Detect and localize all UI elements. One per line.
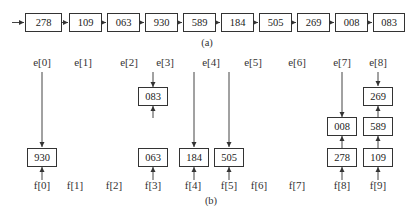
radix-sort-diagram: 278 109 063 930 589 184 505 269 008 083 …: [0, 0, 407, 214]
bucket-node: 184: [179, 148, 209, 167]
f-label: f[6]: [251, 179, 268, 191]
bucket-node: 505: [214, 148, 244, 167]
bucket-node: 278: [327, 148, 357, 167]
list-node: 008: [335, 13, 368, 32]
e-label: e[2]: [120, 56, 138, 68]
bucket-node: 083: [138, 87, 168, 106]
e-label: e[6]: [288, 56, 306, 68]
f-label: f[3]: [145, 179, 162, 191]
f-label: f[0]: [34, 179, 51, 191]
caption-b: (b): [205, 195, 217, 206]
e-label: e[1]: [74, 56, 92, 68]
caption-a: (a): [201, 37, 213, 48]
bucket-node: 930: [27, 148, 57, 167]
f-label: f[4]: [185, 179, 202, 191]
list-node: 269: [297, 13, 330, 32]
list-node: 505: [259, 13, 292, 32]
e-label: e[8]: [369, 56, 387, 68]
f-label: f[8]: [334, 179, 351, 191]
f-label: f[7]: [289, 179, 306, 191]
list-node: 109: [69, 13, 102, 32]
f-label: f[2]: [106, 179, 123, 191]
list-node: 083: [373, 13, 405, 32]
e-label: e[0]: [33, 56, 51, 68]
bucket-node: 109: [363, 148, 393, 167]
list-node: 278: [25, 13, 62, 32]
bucket-node: 008: [327, 117, 357, 136]
f-label: f[1]: [67, 179, 84, 191]
e-label: e[7]: [333, 56, 351, 68]
e-label: e[4]: [202, 56, 220, 68]
f-label: f[5]: [221, 179, 238, 191]
f-label: f[9]: [370, 179, 387, 191]
bucket-node: 063: [138, 148, 168, 167]
list-node: 063: [107, 13, 140, 32]
list-node: 589: [183, 13, 216, 32]
list-node: 930: [145, 13, 178, 32]
e-label: e[5]: [244, 56, 262, 68]
bucket-node: 269: [363, 87, 393, 106]
list-node: 184: [221, 13, 254, 32]
bucket-node: 589: [363, 117, 393, 136]
e-label: e[3]: [156, 56, 174, 68]
